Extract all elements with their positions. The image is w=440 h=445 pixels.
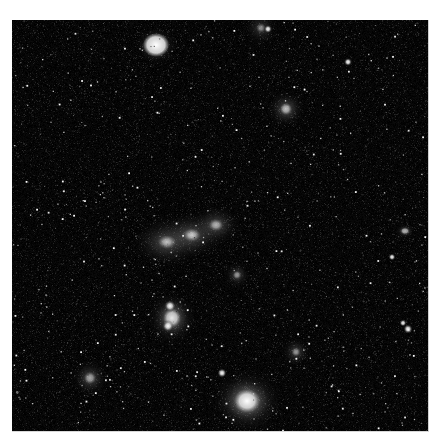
astronomical-image — [12, 20, 429, 432]
star-field — [12, 20, 428, 431]
